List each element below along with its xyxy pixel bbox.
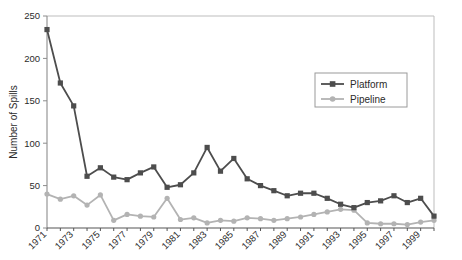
data-point: [44, 191, 49, 196]
y-tick-label: 200: [24, 53, 40, 64]
y-tick-label: 50: [29, 180, 40, 191]
data-point: [325, 196, 330, 201]
data-point: [245, 176, 250, 181]
data-point: [218, 169, 223, 174]
data-point: [418, 196, 423, 201]
data-point: [378, 221, 383, 226]
data-point: [111, 175, 116, 180]
data-point: [285, 216, 290, 221]
data-point: [271, 218, 276, 223]
data-point: [165, 185, 170, 190]
chart-canvas: 050100150200250 197119731975197719791981…: [0, 0, 462, 260]
data-point: [138, 214, 143, 219]
data-point: [285, 193, 290, 198]
data-point: [98, 192, 103, 197]
y-tick-label: 100: [24, 138, 40, 149]
data-point: [338, 202, 343, 207]
data-point: [124, 212, 129, 217]
legend-label: Platform: [350, 79, 387, 90]
data-point: [351, 205, 356, 210]
data-point: [365, 220, 370, 225]
data-point: [231, 156, 236, 161]
data-point: [418, 219, 423, 224]
data-point: [165, 196, 170, 201]
data-point: [84, 174, 89, 179]
data-point: [111, 218, 116, 223]
data-point: [378, 198, 383, 203]
data-point: [325, 209, 330, 214]
y-tick-label: 250: [24, 10, 40, 21]
data-point: [298, 214, 303, 219]
data-point: [151, 214, 156, 219]
data-point: [405, 222, 410, 227]
data-point: [205, 145, 210, 150]
legend-label: Pipeline: [350, 94, 386, 105]
data-point: [191, 170, 196, 175]
y-tick-label: 150: [24, 95, 40, 106]
data-point: [405, 200, 410, 205]
data-point: [245, 215, 250, 220]
data-point: [311, 191, 316, 196]
data-point: [218, 218, 223, 223]
data-point: [365, 200, 370, 205]
data-point: [178, 217, 183, 222]
data-point: [431, 214, 436, 219]
data-point: [58, 80, 63, 85]
data-point: [205, 220, 210, 225]
data-point: [338, 207, 343, 212]
data-point: [391, 193, 396, 198]
data-point: [258, 216, 263, 221]
data-point: [84, 203, 89, 208]
data-point: [298, 191, 303, 196]
data-point: [178, 182, 183, 187]
chart-legend: PlatformPipeline: [315, 73, 407, 107]
data-point: [124, 177, 129, 182]
data-point: [138, 170, 143, 175]
data-point: [258, 183, 263, 188]
data-point: [71, 103, 76, 108]
data-point: [191, 215, 196, 220]
y-axis-title: Number of Spills: [8, 85, 19, 158]
data-point: [311, 212, 316, 217]
data-point: [58, 197, 63, 202]
data-point: [71, 193, 76, 198]
data-point: [271, 188, 276, 193]
spills-line-chart: 050100150200250 197119731975197719791981…: [0, 0, 462, 260]
data-point: [151, 164, 156, 169]
data-point: [231, 219, 236, 224]
data-point: [98, 165, 103, 170]
data-point: [391, 221, 396, 226]
data-point: [44, 27, 49, 32]
